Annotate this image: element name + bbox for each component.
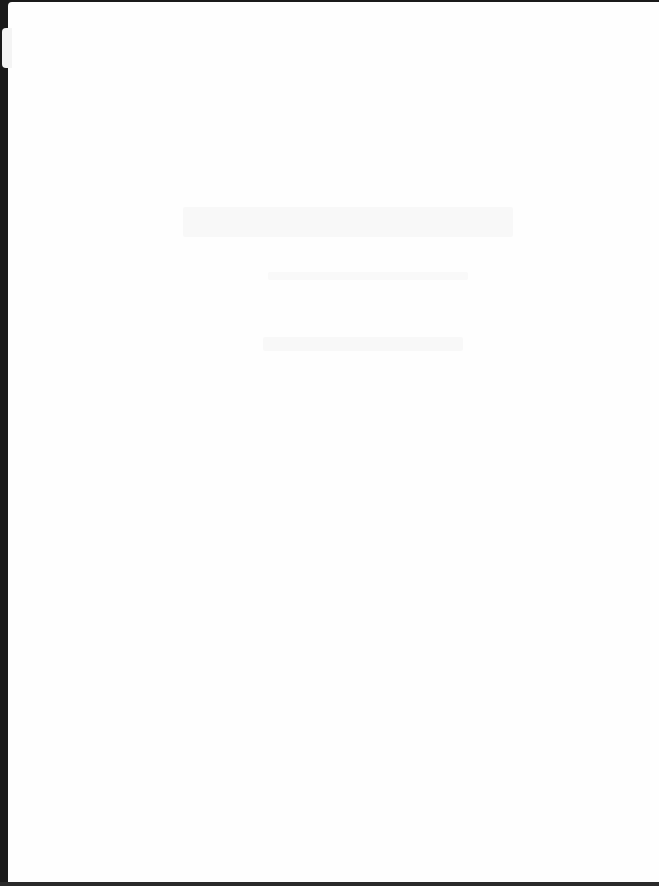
faint-subtitle-text (268, 272, 468, 280)
scanned-page (8, 2, 659, 882)
faint-title-text (183, 207, 513, 237)
page-edge-tab (2, 28, 12, 68)
scan-bottom-edge (0, 882, 659, 886)
faint-author-text (263, 337, 463, 351)
